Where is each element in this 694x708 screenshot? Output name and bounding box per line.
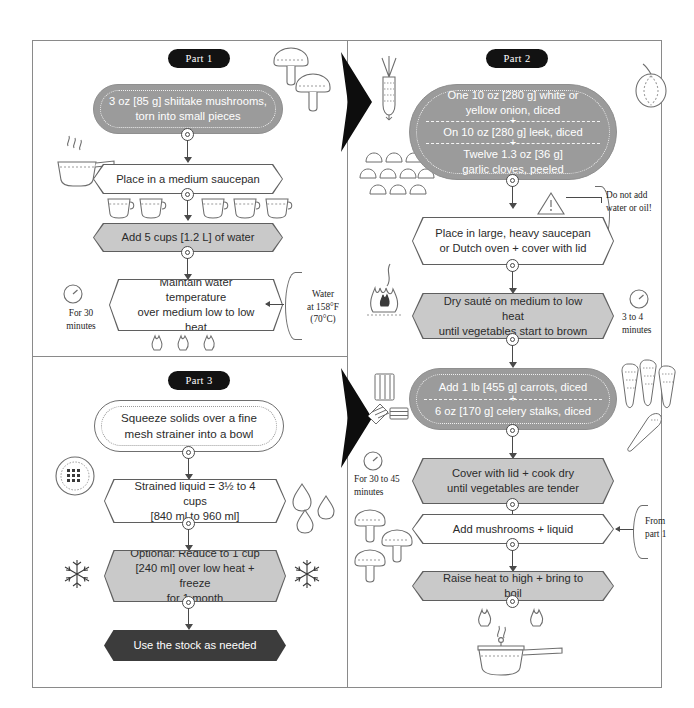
annotation-arrow bbox=[615, 526, 620, 532]
annotation-p2a3: For 30 to 45 minutes bbox=[354, 473, 412, 498]
step-p1s4-label: Maintain water temperature over medium l… bbox=[110, 275, 282, 335]
connector-line bbox=[512, 271, 513, 289]
saucepan-icon bbox=[472, 636, 566, 678]
connector-arrow bbox=[509, 203, 517, 209]
step-p3s3: Optional: Reduce to 1 cup [240 ml] over … bbox=[104, 550, 286, 602]
mushroom-icon bbox=[293, 72, 333, 116]
water-drop-icon bbox=[291, 480, 343, 536]
annotation-p1a1: For 30 minutes bbox=[53, 307, 109, 332]
step-p3s4-label: Use the stock as needed bbox=[113, 638, 276, 653]
step-p1s2-label: Place in a medium saucepan bbox=[96, 172, 280, 187]
warning-triangle-icon bbox=[536, 190, 566, 216]
connector-line bbox=[188, 458, 189, 475]
step-p3s2-label: Strained liquid = 3½ to 4 cups [840 ml t… bbox=[105, 479, 285, 524]
timer-icon bbox=[628, 288, 650, 310]
step-p3s2: Strained liquid = 3½ to 4 cups [840 ml t… bbox=[104, 479, 286, 523]
step-p2s6-label: Add mushrooms + liquid bbox=[433, 522, 593, 537]
connector-line bbox=[187, 140, 188, 158]
pill-separator: + bbox=[424, 399, 601, 400]
annotation-p2a2: 3 to 4 minutes bbox=[622, 311, 674, 336]
connector-arrow bbox=[184, 215, 192, 221]
snowflake-icon bbox=[292, 558, 322, 590]
annotation-p2a1: Do not add water or oil! bbox=[606, 189, 664, 214]
timer-icon bbox=[62, 283, 84, 305]
measuring-cup-icon bbox=[200, 196, 304, 220]
step-p2s1: One 10 oz [280 g] white or yellow onion,… bbox=[409, 84, 617, 180]
hex-face: Strained liquid = 3½ to 4 cups [840 ml t… bbox=[105, 480, 285, 522]
celery-icon bbox=[366, 372, 408, 428]
mushroom-icon bbox=[353, 548, 389, 586]
carrot-icon bbox=[618, 358, 684, 454]
step-p1s3-label: Add 5 cups [1.2 L] of water bbox=[101, 230, 274, 245]
part-3-badge: Part 3 bbox=[168, 371, 230, 390]
snowflake-icon bbox=[62, 558, 92, 590]
step-p1s4: Maintain water temperature over medium l… bbox=[109, 279, 283, 331]
panel-horizontal-divider bbox=[32, 356, 347, 357]
step-p3s4: Use the stock as needed bbox=[104, 630, 286, 661]
connector-node bbox=[506, 595, 519, 608]
step-p3s3-label: Optional: Reduce to 1 cup [240 ml] over … bbox=[105, 546, 285, 606]
connector-line bbox=[512, 186, 513, 204]
connector-line bbox=[512, 550, 513, 567]
flame-icon bbox=[150, 334, 226, 352]
connector-line bbox=[187, 258, 188, 275]
steam-icon bbox=[64, 130, 94, 158]
hex-face: Use the stock as needed bbox=[105, 631, 285, 660]
strainer-icon bbox=[54, 455, 96, 497]
step-p2s5-label: Cover with lid + cook dry until vegetabl… bbox=[427, 466, 599, 496]
step-p2s3-label: Dry sauté on medium to low heat until ve… bbox=[413, 294, 613, 339]
step-p2s2-label: Place in large, heavy saucepan or Dutch … bbox=[415, 226, 610, 256]
annotation-arrow bbox=[265, 301, 270, 307]
hex-face: Place in large, heavy saucepan or Dutch … bbox=[413, 218, 613, 264]
flowchart-sheet: Part 1 3 oz [85 g] shiitake mushrooms, t… bbox=[0, 0, 694, 708]
annotation-p2a4: From part 1 bbox=[645, 515, 687, 540]
annotation-p1a2: Water at 158°F (70°C) bbox=[300, 288, 346, 326]
flame-icon bbox=[365, 262, 413, 324]
connector-line bbox=[188, 529, 189, 546]
step-p2s1-line-3: Twelve 1.3 oz [36 g] garlic cloves, peel… bbox=[392, 147, 634, 177]
pill-separator: + bbox=[426, 121, 599, 122]
timer-icon bbox=[362, 450, 384, 472]
connector-line bbox=[188, 608, 189, 625]
step-p1s1-label: 3 oz [85 g] shiitake mushrooms, torn int… bbox=[94, 94, 282, 124]
part-1-badge: Part 1 bbox=[168, 49, 230, 68]
step-p3s1-label: Squeeze solids over a fine mesh strainer… bbox=[95, 410, 283, 441]
step-p2s4-line-2: 6 oz [170 g] celery stalks, diced bbox=[394, 404, 632, 419]
connector-line bbox=[187, 200, 188, 216]
connector-line bbox=[512, 345, 513, 363]
hex-face: Optional: Reduce to 1 cup [240 ml] over … bbox=[105, 551, 285, 601]
hex-face: Dry sauté on medium to low heat until ve… bbox=[413, 294, 613, 338]
hex-face: Cover with lid + cook dry until vegetabl… bbox=[413, 459, 613, 503]
step-p1s1: 3 oz [85 g] shiitake mushrooms, torn int… bbox=[93, 84, 283, 134]
onion-icon bbox=[632, 62, 670, 110]
connector-line bbox=[512, 436, 513, 454]
hex-face: Maintain water temperature over medium l… bbox=[110, 280, 282, 330]
step-p2s4: Add 1 lb [455 g] carrots, diced + 6 oz [… bbox=[409, 368, 617, 430]
step-p3s1: Squeeze solids over a fine mesh strainer… bbox=[94, 400, 284, 452]
connector-arrow bbox=[184, 157, 192, 163]
part-2-badge: Part 2 bbox=[486, 49, 548, 68]
measuring-cup-icon bbox=[106, 196, 178, 220]
step-p2s2: Place in large, heavy saucepan or Dutch … bbox=[412, 217, 614, 265]
pill-separator: + bbox=[426, 143, 599, 144]
